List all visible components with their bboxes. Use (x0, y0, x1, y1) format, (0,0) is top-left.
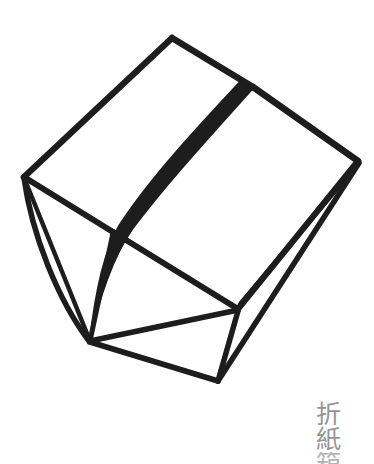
caption-char-3-partial: 箱 (308, 452, 348, 464)
caption-char-2: 紙 (308, 428, 348, 453)
caption-origami-text: 折 紙 箱 (308, 403, 348, 464)
caption-char-1: 折 (308, 403, 348, 428)
